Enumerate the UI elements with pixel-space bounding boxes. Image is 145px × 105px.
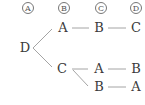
node-row2-col2: C [57,62,67,76]
node-row2-col3: A [94,62,103,76]
node-row3-col3: B [94,80,104,94]
column-header-d: D [130,2,142,14]
node-row1-col4: C [131,21,141,35]
column-header-c: C [95,2,107,14]
column-header-b: B [58,2,70,14]
node-row1-col3: B [94,21,104,35]
edge-d-c [33,48,52,67]
column-header-a: A [22,2,34,14]
node-row1-col2: A [58,21,67,35]
edge-row2-c-row3-b [73,70,88,86]
node-row2-col4: B [131,62,141,76]
root-node: D [20,41,30,55]
tree-diagram: A B C D D A B C C A B B A [0,0,145,105]
edge-d-a [33,29,52,48]
node-row3-col4: A [131,80,140,94]
